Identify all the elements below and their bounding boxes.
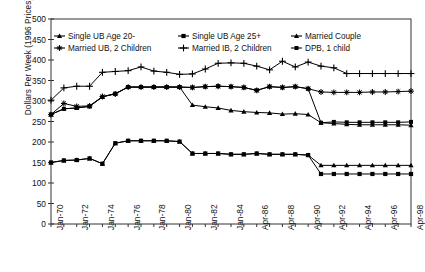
legend-label: Married IB, 2 Children	[192, 44, 272, 53]
legend-item[interactable]: DPB, 1 child	[291, 44, 350, 53]
data-point-marker	[253, 63, 260, 70]
data-point-marker	[318, 63, 325, 70]
data-point-marker	[190, 85, 194, 89]
data-point-marker	[295, 46, 299, 50]
data-point-marker	[49, 160, 53, 164]
data-point-marker	[369, 70, 376, 77]
data-point-marker	[112, 68, 119, 75]
data-point-marker	[125, 67, 132, 74]
data-point-marker	[395, 89, 401, 95]
data-point-marker	[408, 70, 415, 77]
data-point-marker	[383, 120, 387, 124]
data-point-marker	[280, 152, 284, 156]
data-point-marker	[189, 71, 196, 78]
data-point-marker	[306, 87, 310, 91]
data-point-marker	[267, 152, 271, 156]
data-point-marker	[396, 172, 400, 176]
data-point-marker	[138, 64, 145, 71]
data-point-marker	[268, 85, 272, 89]
data-point-marker	[73, 83, 80, 90]
legend-item[interactable]: Married Couple	[291, 32, 361, 41]
data-point-marker	[139, 85, 143, 89]
legend-label: Single UB Age 25+	[192, 32, 261, 41]
data-point-marker	[319, 121, 323, 125]
data-point-marker	[396, 120, 400, 124]
data-point-marker	[356, 70, 363, 77]
legend-item[interactable]: Married UB, 2 Children	[54, 44, 152, 53]
data-point-marker	[382, 89, 388, 95]
data-point-marker	[216, 151, 220, 155]
data-point-marker	[152, 85, 156, 89]
legend-label: Single UB Age 20-	[68, 32, 135, 41]
legend-label: Married Couple	[305, 32, 361, 41]
data-point-marker	[266, 66, 273, 73]
data-point-marker	[229, 152, 233, 156]
data-point-marker	[62, 158, 66, 162]
chart-legend: Single UB Age 20-Single UB Age 25+Marrie…	[54, 32, 361, 53]
data-point-marker	[176, 71, 183, 78]
data-point-marker	[57, 45, 63, 51]
data-point-marker	[395, 70, 402, 77]
data-point-marker	[202, 66, 209, 73]
data-point-marker	[181, 34, 185, 38]
data-point-marker	[49, 113, 53, 117]
data-point-marker	[280, 85, 284, 89]
legend-item[interactable]: Single UB Age 25+	[178, 32, 261, 41]
data-point-marker	[305, 59, 312, 66]
data-point-marker	[318, 89, 324, 95]
data-point-marker	[150, 68, 157, 75]
data-point-marker	[87, 156, 91, 160]
data-point-marker	[100, 95, 104, 99]
data-point-marker	[177, 139, 181, 143]
data-point-marker	[332, 120, 336, 124]
data-point-marker	[408, 88, 414, 94]
data-point-marker	[370, 120, 374, 124]
data-point-marker	[165, 139, 169, 143]
data-point-marker	[216, 84, 220, 88]
data-point-marker	[228, 59, 235, 66]
data-point-marker	[88, 104, 92, 108]
data-point-marker	[62, 107, 66, 111]
legend-item[interactable]: Single UB Age 20-	[54, 32, 135, 41]
data-point-marker	[344, 89, 350, 95]
data-point-marker	[279, 58, 286, 65]
chart-series	[49, 139, 413, 176]
data-point-marker	[358, 120, 362, 124]
legend-label: DPB, 1 child	[305, 44, 350, 53]
legend-label: Married UB, 2 Children	[68, 44, 152, 53]
data-point-marker	[255, 88, 259, 92]
data-point-marker	[229, 85, 233, 89]
data-point-marker	[152, 139, 156, 143]
data-point-marker	[330, 64, 337, 71]
data-point-marker	[180, 45, 187, 52]
data-point-marker	[409, 120, 413, 124]
data-point-marker	[163, 69, 170, 76]
data-point-marker	[345, 172, 349, 176]
data-point-marker	[240, 60, 247, 67]
data-point-marker	[357, 172, 361, 176]
data-point-marker	[75, 106, 79, 110]
data-point-marker	[242, 85, 246, 89]
data-point-marker	[126, 139, 130, 143]
data-point-marker	[357, 89, 363, 95]
data-point-marker	[75, 158, 79, 162]
data-point-marker	[139, 139, 143, 143]
data-point-marker	[370, 89, 376, 95]
data-point-marker	[178, 85, 182, 89]
data-point-marker	[190, 151, 194, 155]
data-point-marker	[319, 172, 323, 176]
data-point-marker	[382, 70, 389, 77]
data-point-marker	[343, 70, 350, 77]
chart-series	[49, 84, 413, 124]
data-point-marker	[100, 162, 104, 166]
data-point-marker	[215, 60, 222, 67]
data-point-marker	[293, 85, 297, 89]
data-point-marker	[292, 64, 299, 71]
data-point-marker	[113, 92, 117, 96]
data-point-marker	[332, 172, 336, 176]
data-point-marker	[345, 120, 349, 124]
legend-item[interactable]: Married IB, 2 Children	[178, 44, 272, 53]
data-point-marker	[126, 85, 130, 89]
